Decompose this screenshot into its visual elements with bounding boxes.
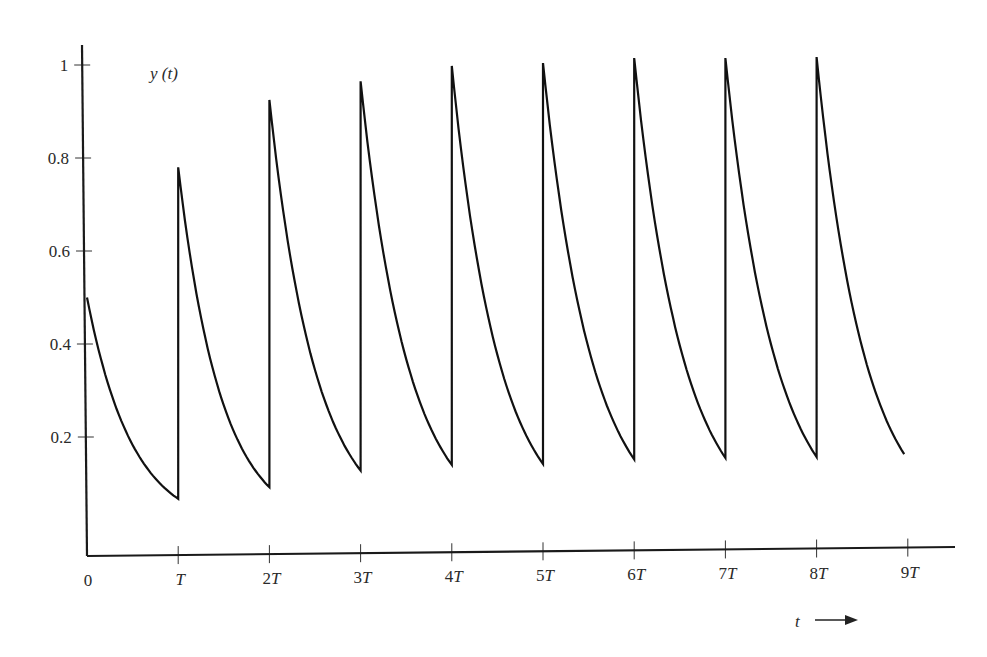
y-of-t-curve — [87, 57, 904, 499]
x-tick-label: 7T — [718, 564, 738, 583]
x-tick-label: 9T — [901, 563, 921, 582]
y-tick-label: 1 — [60, 56, 69, 75]
x-tick-label: 8T — [810, 564, 830, 583]
x-tick-label: 3T — [354, 568, 374, 587]
x-tick-label: 0 — [84, 571, 93, 590]
y-axis-ticks: 0.20.40.60.81 — [48, 56, 94, 447]
x-tick-label: 4T — [445, 567, 465, 586]
y-tick-label: 0.8 — [48, 149, 69, 168]
y-tick-label: 0.4 — [50, 335, 72, 354]
y-of-t-line — [87, 57, 904, 499]
chart-canvas: 0.20.40.60.81 0T2T3T4T5T6T7T8T9T y (t) t — [0, 0, 987, 657]
y-axis — [82, 45, 87, 556]
t-axis-label: t — [795, 612, 858, 631]
x-tick-label: 2T — [262, 569, 282, 588]
x-axis-ticks: 0T2T3T4T5T6T7T8T9T — [84, 539, 921, 590]
y-axis-label: y (t) — [148, 64, 178, 83]
right-arrow-icon — [815, 615, 858, 625]
y-tick-label: 0.2 — [51, 428, 72, 447]
x-tick-label: 6T — [627, 565, 647, 584]
x-tick-label: T — [175, 570, 186, 589]
x-axis — [87, 547, 955, 556]
x-tick-label: 5T — [536, 566, 556, 585]
y-tick-label: 0.6 — [49, 242, 70, 261]
t-label: t — [795, 612, 801, 631]
